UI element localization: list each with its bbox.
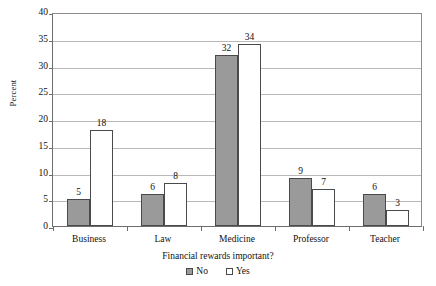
x-category-label: Business <box>52 234 126 244</box>
bar-value-label: 34 <box>232 32 267 42</box>
x-tick-mark <box>53 226 54 231</box>
y-tick-label: 15 <box>26 142 48 152</box>
bar <box>238 44 261 226</box>
y-tick-mark <box>49 175 53 176</box>
legend-item-yes: Yes <box>226 266 250 276</box>
bar-chart: Percent 0510152025303540 5186832349763 B… <box>0 0 436 286</box>
y-tick-label: 5 <box>26 195 48 205</box>
x-category-label: Teacher <box>348 234 422 244</box>
bar-value-label: 18 <box>84 118 119 128</box>
bar-value-label: 8 <box>158 171 193 181</box>
bar <box>164 183 187 226</box>
bar <box>67 199 90 226</box>
y-tick-label: 30 <box>26 62 48 72</box>
bar <box>141 194 164 226</box>
y-tick-label: 40 <box>26 8 48 18</box>
y-tick-label: 25 <box>26 88 48 98</box>
bar <box>386 210 409 226</box>
bar-value-label: 7 <box>306 177 341 187</box>
y-tick-mark <box>49 148 53 149</box>
bar <box>312 189 335 226</box>
legend-swatch-no-icon <box>186 268 193 275</box>
y-axis-ticks: 0510152025303540 <box>26 0 48 240</box>
x-axis-title: Financial rewards important? <box>0 251 436 261</box>
y-tick-label: 35 <box>26 35 48 45</box>
y-tick-mark <box>49 201 53 202</box>
legend-label-no: No <box>196 266 208 276</box>
legend-label-yes: Yes <box>236 266 250 276</box>
x-tick-mark <box>127 226 128 231</box>
y-tick-label: 10 <box>26 169 48 179</box>
x-category-label: Law <box>126 234 200 244</box>
bar <box>90 130 113 226</box>
y-tick-label: 0 <box>26 222 48 232</box>
y-tick-mark <box>49 41 53 42</box>
bar-value-label: 3 <box>380 198 415 208</box>
y-axis-label: Percent <box>8 56 18 130</box>
bar-value-label: 6 <box>357 182 392 192</box>
x-tick-mark <box>349 226 350 231</box>
bar-value-label: 9 <box>283 166 318 176</box>
x-category-label: Medicine <box>200 234 274 244</box>
y-tick-mark <box>49 14 53 15</box>
bar <box>215 55 238 226</box>
legend-item-no: No <box>186 266 208 276</box>
x-tick-mark <box>275 226 276 231</box>
y-tick-mark <box>49 68 53 69</box>
x-category-label: Professor <box>274 234 348 244</box>
y-tick-label: 20 <box>26 115 48 125</box>
y-tick-mark <box>49 94 53 95</box>
legend-swatch-yes-icon <box>226 268 233 275</box>
legend: No Yes <box>0 266 436 276</box>
x-tick-mark <box>201 226 202 231</box>
y-tick-mark <box>49 121 53 122</box>
x-tick-mark <box>423 226 424 231</box>
plot-area: 5186832349763 <box>52 13 422 227</box>
